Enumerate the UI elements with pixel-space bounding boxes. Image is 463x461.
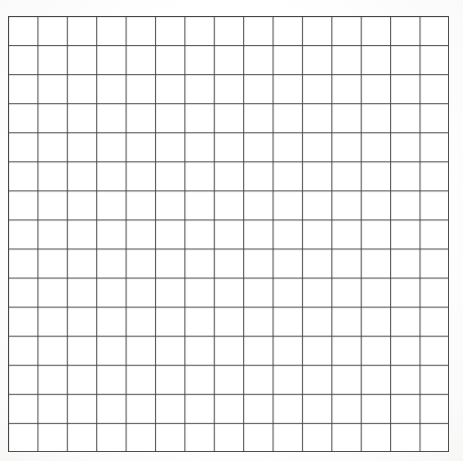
grid-border-left (8, 16, 9, 452)
grid-border-top (8, 16, 449, 17)
grid-figure (8, 16, 449, 452)
grid-lines (8, 16, 449, 452)
grid-border-right (448, 16, 449, 452)
page-canvas (0, 0, 463, 461)
grid-border-bottom (8, 451, 449, 452)
